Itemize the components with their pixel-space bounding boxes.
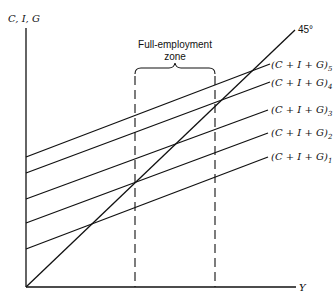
cig-label-1: (C + I + G)1 [271, 151, 332, 165]
cig-label-5: (C + I + G)5 [271, 59, 333, 73]
zone-label-line1: Full-employment [138, 39, 212, 50]
45-degree-label: 45° [298, 24, 313, 35]
y-axis-label: C, I, G [8, 13, 40, 24]
cig-line-3 [26, 110, 268, 199]
cig-label-3: (C + I + G)3 [271, 104, 333, 118]
cig-line-5 [26, 64, 270, 157]
cig-label-2: (C + I + G)2 [271, 127, 333, 141]
x-axis-label: Y [299, 282, 307, 293]
cig-line-2 [26, 133, 268, 223]
cig-line-4 [26, 82, 270, 173]
keynesian-cross-diagram: C, I, G Y Full-employment zone 45° (C + … [0, 0, 334, 304]
zone-label-line2: zone [164, 51, 186, 62]
cig-label-4: (C + I + G)4 [271, 77, 332, 91]
zone-brace [135, 63, 215, 74]
